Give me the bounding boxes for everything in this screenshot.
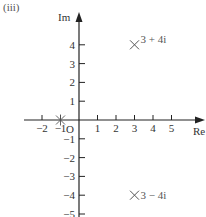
y-tick-label: −4 [63,189,75,201]
x-ticks: −2−112345 [36,115,175,134]
point-label: 3 − 4i [141,189,167,201]
y-tick-label: 2 [70,76,76,88]
imaginary-axis-arrow-icon [76,12,83,22]
x-tick-label: −2 [36,122,48,134]
x-tick-label: 4 [150,122,156,134]
y-axis-label: Im [58,11,71,23]
x-axis-label: Re [193,125,205,137]
cross-marker-icon [130,191,139,200]
point-label: 3 + 4i [141,33,167,45]
y-tick-label: 4 [70,39,76,51]
y-tick-label: −2 [63,152,75,164]
y-tick-label: 3 [70,58,76,70]
x-tick-label: 3 [132,122,138,134]
cross-marker-icon [130,40,139,49]
y-tick-label: −3 [63,170,75,182]
origin-label: O [66,123,74,135]
argand-diagram: −2−112345 4321−1−2−3−4−5 3 + 4i3 − 4i Re… [0,0,206,217]
y-tick-label: 1 [70,95,76,107]
x-tick-label: 1 [95,122,101,134]
x-tick-label: 2 [113,122,119,134]
y-tick-label: −5 [63,208,75,217]
x-tick-label: 5 [169,122,175,134]
real-axis-arrow-icon [195,117,205,124]
